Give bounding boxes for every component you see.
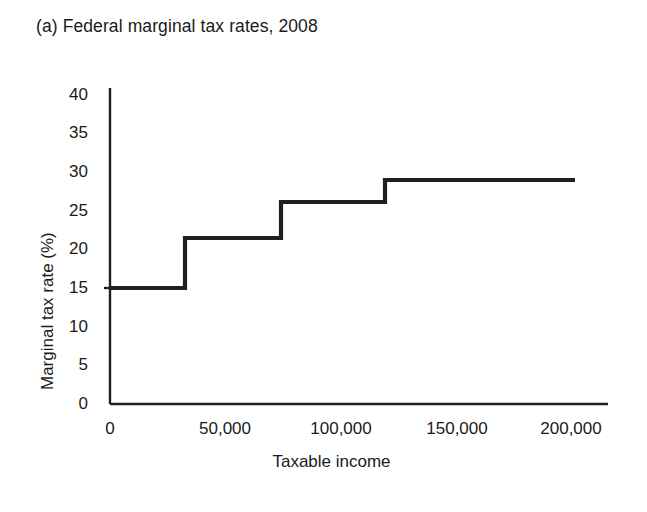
y-tick-label-0: 0 [42, 394, 88, 414]
x-axis-title-text: Taxable income [256, 452, 390, 471]
x-tick-label-100000: 100,000 [310, 419, 371, 439]
x-tick-label-150000: 150,000 [426, 419, 487, 439]
step-line-marginal-tax-rate [110, 180, 575, 288]
figure-panel: (a) Federal marginal tax rates, 2008 40 … [0, 0, 647, 512]
x-tick-label-50000: 50,000 [199, 419, 251, 439]
x-axis-title: Taxable income [0, 452, 647, 472]
x-tick-label-200000: 200,000 [540, 419, 601, 439]
y-axis-title: Marginal tax rate (%) [38, 70, 58, 390]
x-tick-label-0: 0 [105, 419, 114, 439]
